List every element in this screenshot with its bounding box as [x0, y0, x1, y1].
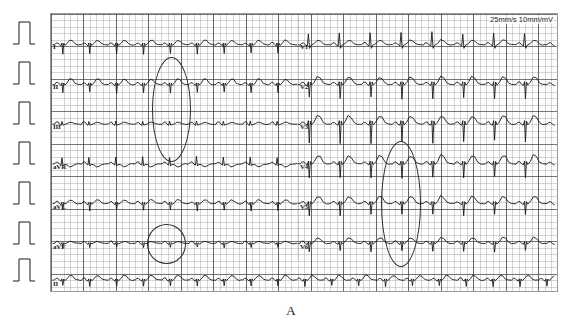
- calibration-pulse-3: [13, 142, 35, 164]
- ecg-trace-v3: [298, 115, 554, 143]
- lead-label-v4-10: V4: [300, 164, 308, 171]
- lead-label-iii-2: III: [53, 124, 61, 131]
- ellipse-right: [381, 141, 421, 267]
- ecg-trace-v5: [298, 195, 554, 215]
- panel-letter: A: [0, 303, 582, 319]
- calibration-pulse-6: [13, 259, 35, 281]
- lead-label-v6-12: V6: [300, 244, 308, 251]
- ecg-trace-v6: [298, 237, 554, 252]
- ecg-trace-v4: [298, 154, 554, 178]
- ecg-trace-i: [53, 40, 297, 54]
- lead-label-v3-9: V3: [300, 124, 308, 131]
- calibration-pulse-2: [13, 102, 35, 124]
- lead-label-v1-7: V1: [300, 44, 308, 51]
- ecg-figure: 25mm/s 10mm/mV IIIIIIaVRaVLaVFIIV1V2V3V4…: [0, 0, 582, 333]
- ellipse-left-lower: [147, 224, 186, 264]
- ecg-trace-v2: [298, 76, 554, 99]
- lead-label-v5-11: V5: [300, 204, 308, 211]
- ecg-trace-v1: [298, 32, 554, 49]
- calibration-pulse-5: [13, 222, 35, 244]
- ecg-trace-ii-rhythm: [53, 275, 554, 287]
- lead-label-avl-4: aVL: [53, 204, 66, 211]
- lead-label-avf-5: aVF: [53, 244, 65, 251]
- lead-label-ii-1: II: [53, 84, 58, 91]
- speed-gain-caption: 25mm/s 10mm/mV: [489, 15, 554, 24]
- calibration-pulse-0: [13, 22, 35, 44]
- lead-label-ii-6: II: [53, 281, 58, 288]
- ecg-trace-avl: [53, 199, 297, 211]
- lead-label-v2-8: V2: [300, 84, 308, 91]
- lead-label-i-0: I: [53, 44, 56, 51]
- ellipse-left-upper: [152, 57, 191, 162]
- lead-label-avr-3: aVR: [53, 164, 66, 171]
- calibration-pulse-1: [13, 62, 35, 84]
- calibration-pulse-4: [13, 182, 35, 204]
- calibration-pulse-column: [0, 0, 50, 333]
